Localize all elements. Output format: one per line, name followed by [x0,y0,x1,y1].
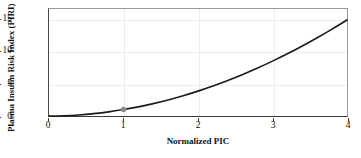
x-tick-label: 0 [46,121,51,131]
y-tick-mark [0,19,1,20]
x-tick-mark [48,118,49,122]
y-tick-mark [0,117,1,118]
y-tick-label: 10 [3,47,13,57]
x-tick-mark [273,118,274,122]
y-tick-label: 0 [7,112,12,122]
x-tick-mark [198,118,199,122]
x-axis-title: Normalized PIC [48,136,348,146]
y-tick-label: 5 [7,79,12,89]
reference-point-dot [121,107,127,112]
x-tick-label: 1 [121,121,126,131]
x-tick-label: 2 [196,121,201,131]
x-axis-ticks: 01234 [48,118,348,134]
x-tick-mark [348,118,349,122]
y-axis-ticks: 051015 [0,0,45,125]
x-tick-mark [123,118,124,122]
x-tick-label: 4 [346,121,351,131]
y-tick-mark [0,84,1,85]
chart-figure: Plasma Insulin Risk Index (PIRI) 051015 … [0,0,361,158]
x-tick-label: 3 [271,121,276,131]
y-tick-label: 15 [3,14,13,24]
reference-point-marker [49,9,347,116]
y-tick-mark [0,51,1,52]
plot-area [48,8,348,117]
